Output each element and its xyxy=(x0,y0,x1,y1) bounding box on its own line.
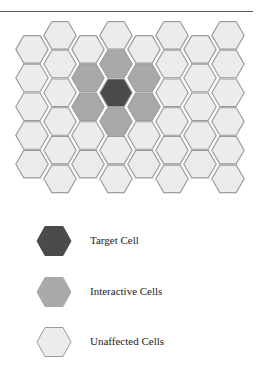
unaffected-cell xyxy=(16,36,48,64)
unaffected-cell xyxy=(16,150,48,178)
unaffected-cell xyxy=(156,79,188,107)
unaffected-cell xyxy=(156,165,188,193)
unaffected-cell xyxy=(156,50,188,78)
unaffected-cell xyxy=(156,22,188,49)
unaffected-cell xyxy=(16,64,48,92)
interactive-cell xyxy=(100,50,132,78)
unaffected-hex-icon xyxy=(36,327,72,357)
unaffected-cell xyxy=(44,108,76,136)
legend-label-target: Target Cell xyxy=(90,234,139,246)
legend-label-unaffected: Unaffected Cells xyxy=(90,335,164,347)
unaffected-cell xyxy=(212,50,244,78)
legend-label-interactive: Interactive Cells xyxy=(90,285,162,297)
unaffected-cell xyxy=(72,122,104,150)
interactive-cell xyxy=(128,64,160,92)
unaffected-cell xyxy=(184,64,216,92)
unaffected-cell xyxy=(184,36,216,64)
unaffected-cell xyxy=(184,93,216,121)
interactive-cell xyxy=(72,64,104,92)
hex-grid xyxy=(0,0,257,200)
unaffected-cell xyxy=(156,108,188,136)
legend-item-interactive: Interactive Cells xyxy=(36,277,236,307)
unaffected-cell xyxy=(44,136,76,164)
unaffected-cell xyxy=(100,136,132,164)
target-hex-icon xyxy=(36,226,72,256)
legend-item-unaffected: Unaffected Cells xyxy=(36,327,236,357)
interactive-cell xyxy=(128,93,160,121)
unaffected-cell xyxy=(44,22,76,49)
target-cell xyxy=(100,79,132,107)
unaffected-cell xyxy=(100,165,132,193)
unaffected-cell xyxy=(44,165,76,193)
unaffected-cell xyxy=(212,165,244,193)
unaffected-cell xyxy=(100,22,132,49)
unaffected-cell xyxy=(212,22,244,49)
unaffected-cell xyxy=(212,108,244,136)
unaffected-cell xyxy=(72,150,104,178)
unaffected-cell xyxy=(72,36,104,64)
interactive-hex-icon xyxy=(36,277,72,307)
unaffected-cell xyxy=(128,36,160,64)
unaffected-cell xyxy=(156,136,188,164)
interactive-cell xyxy=(100,108,132,136)
unaffected-cell xyxy=(16,122,48,150)
unaffected-cell xyxy=(16,93,48,121)
unaffected-cell xyxy=(128,122,160,150)
interactive-cell xyxy=(72,93,104,121)
unaffected-cell xyxy=(212,79,244,107)
legend-item-target: Target Cell xyxy=(36,226,236,256)
unaffected-cell xyxy=(212,136,244,164)
unaffected-cell xyxy=(184,150,216,178)
unaffected-cell xyxy=(184,122,216,150)
unaffected-cell xyxy=(44,79,76,107)
unaffected-cell xyxy=(128,150,160,178)
unaffected-cell xyxy=(44,50,76,78)
